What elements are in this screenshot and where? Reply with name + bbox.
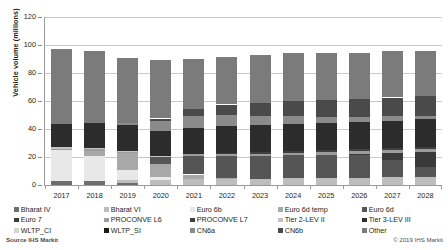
legend-item[interactable]: Bharat IV — [14, 204, 51, 215]
bar-segment[interactable] — [51, 149, 72, 151]
bar-segment[interactable] — [382, 98, 403, 117]
bar-segment[interactable] — [382, 51, 403, 97]
bar-segment[interactable] — [382, 148, 403, 150]
bar-segment[interactable] — [150, 164, 171, 177]
legend-item[interactable]: Other — [362, 225, 411, 236]
bar-segment[interactable] — [183, 179, 204, 185]
bar-segment[interactable] — [150, 177, 171, 180]
bar-segment[interactable] — [382, 153, 403, 160]
bar-segment[interactable] — [216, 156, 237, 178]
bar-segment[interactable] — [250, 55, 271, 103]
bar-segment[interactable] — [183, 128, 204, 154]
bar-segment[interactable] — [283, 151, 304, 153]
legend-item[interactable]: WLTP_CI — [14, 225, 51, 236]
bar-segment[interactable] — [150, 157, 171, 164]
bar-segment[interactable] — [150, 119, 171, 121]
bar-segment[interactable] — [183, 175, 204, 180]
bar-segment[interactable] — [183, 116, 204, 129]
bar-segment[interactable] — [316, 53, 337, 100]
legend-item[interactable]: Euro 6d — [362, 204, 411, 215]
bar-segment[interactable] — [250, 125, 271, 152]
bar-segment[interactable] — [216, 154, 237, 156]
bar-segment[interactable] — [117, 170, 138, 181]
bar-segment[interactable] — [84, 151, 105, 157]
bar-segment[interactable] — [150, 60, 171, 118]
legend-item[interactable]: Tier 3-LEV III — [362, 215, 411, 226]
bar-segment[interactable] — [51, 124, 72, 147]
bar-segment[interactable] — [283, 124, 304, 151]
bar-segment[interactable] — [250, 156, 271, 178]
bar-segment[interactable] — [316, 123, 337, 150]
bar-segment[interactable] — [51, 147, 72, 148]
legend-item[interactable]: Euro 6b — [190, 204, 248, 215]
bar-segment[interactable] — [150, 180, 171, 185]
bar-segment[interactable] — [415, 51, 436, 96]
bar-segment[interactable] — [117, 151, 138, 152]
bar-segment[interactable] — [183, 154, 204, 156]
bar-segment[interactable] — [316, 100, 337, 117]
bar-segment[interactable] — [349, 53, 370, 99]
bar-segment[interactable] — [117, 183, 138, 185]
bar-segment[interactable] — [349, 154, 370, 155]
bar-segment[interactable] — [316, 155, 337, 178]
bar-segment[interactable] — [415, 147, 436, 149]
bar-segment[interactable] — [349, 122, 370, 149]
legend-item[interactable]: PROCONVE L6 — [104, 215, 162, 226]
bar-segment[interactable] — [150, 131, 171, 156]
bar-segment[interactable] — [415, 152, 436, 167]
bar-segment[interactable] — [183, 59, 204, 110]
bar-segment[interactable] — [415, 116, 436, 120]
bar-segment[interactable] — [349, 151, 370, 154]
bar-segment[interactable] — [51, 150, 72, 180]
bar-segment[interactable] — [415, 149, 436, 152]
bar-segment[interactable] — [316, 150, 337, 152]
bar-segment[interactable] — [183, 109, 204, 115]
bar-segment[interactable] — [216, 57, 237, 105]
bar-segment[interactable] — [349, 178, 370, 185]
bar-segment[interactable] — [216, 178, 237, 179]
bar-segment[interactable] — [349, 99, 370, 117]
bar-segment[interactable] — [84, 149, 105, 151]
bar-segment[interactable] — [117, 180, 138, 183]
bar-segment[interactable] — [415, 96, 436, 116]
bar-segment[interactable] — [283, 153, 304, 156]
bar-segment[interactable] — [415, 167, 436, 177]
bar-segment[interactable] — [283, 178, 304, 185]
bar-segment[interactable] — [316, 178, 337, 185]
bar-segment[interactable] — [250, 179, 271, 185]
bar-segment[interactable] — [250, 154, 271, 157]
bar-segment[interactable] — [183, 156, 204, 174]
bar-segment[interactable] — [216, 105, 237, 116]
legend-item[interactable]: Euro 7 — [14, 215, 51, 226]
bar-segment[interactable] — [150, 156, 171, 157]
bar-segment[interactable] — [51, 181, 72, 185]
bar-segment[interactable] — [51, 49, 72, 124]
bar-segment[interactable] — [382, 160, 403, 178]
legend-item[interactable]: Bharat VI — [104, 204, 162, 215]
bar-segment[interactable] — [349, 149, 370, 151]
bar-segment[interactable] — [415, 177, 436, 185]
bar-segment[interactable] — [316, 117, 337, 123]
bar-segment[interactable] — [250, 152, 271, 153]
bar-segment[interactable] — [84, 51, 105, 123]
legend-item[interactable]: WLTP_SI — [104, 225, 162, 236]
bar-segment[interactable] — [117, 125, 138, 151]
bar-segment[interactable] — [382, 121, 403, 148]
bar-segment[interactable] — [216, 115, 237, 126]
bar-segment[interactable] — [117, 153, 138, 170]
bar-segment[interactable] — [382, 177, 403, 185]
bar-segment[interactable] — [117, 123, 138, 125]
bar-segment[interactable] — [84, 123, 105, 148]
bar-segment[interactable] — [349, 155, 370, 177]
legend-item[interactable]: CN6b — [278, 225, 328, 236]
bar-segment[interactable] — [250, 116, 271, 125]
bar-segment[interactable] — [283, 101, 304, 116]
bar-segment[interactable] — [283, 53, 304, 101]
bar-segment[interactable] — [415, 119, 436, 147]
legend-item[interactable]: Euro 6d temp — [278, 204, 328, 215]
bar-segment[interactable] — [283, 116, 304, 124]
bar-segment[interactable] — [216, 153, 237, 154]
bar-segment[interactable] — [283, 155, 304, 178]
bar-segment[interactable] — [382, 116, 403, 120]
legend-item[interactable]: Tier 2-LEV II — [278, 215, 328, 226]
